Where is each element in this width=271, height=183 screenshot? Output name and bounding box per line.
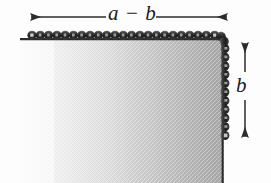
bead-chain-right [221,44,230,140]
figure-svg [0,0,271,183]
figure-canvas: a − b b [0,0,271,183]
dimension-label-height: b [236,75,247,96]
bead-chain-top [27,31,219,40]
gray-plate [20,38,224,183]
dimension-label-width: a − b [108,3,156,24]
